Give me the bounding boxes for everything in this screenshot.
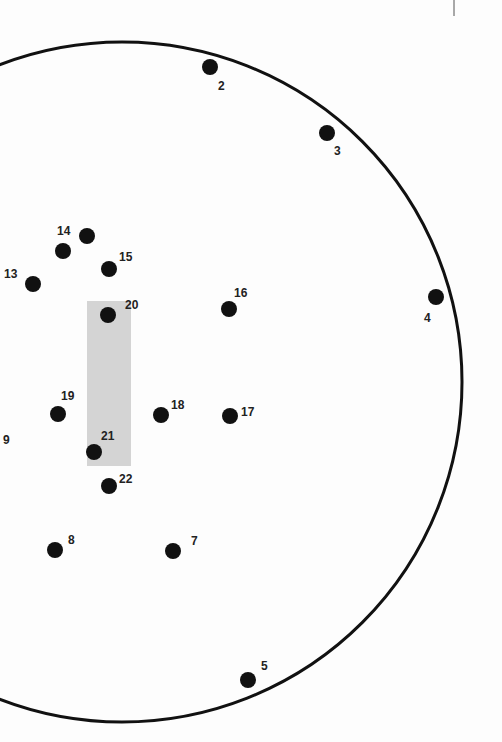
dot-label-3: 3 xyxy=(334,144,341,158)
dot-label-7: 7 xyxy=(191,534,198,548)
dots-group xyxy=(0,0,444,688)
dot-3 xyxy=(319,125,335,141)
dot-13 xyxy=(25,276,41,292)
dot-8 xyxy=(47,542,63,558)
circle-outline xyxy=(0,42,462,722)
dot-label-14: 14 xyxy=(57,224,71,238)
dot-label-13: 13 xyxy=(4,267,18,281)
dot-label-15: 15 xyxy=(119,250,133,264)
dot-label-20: 20 xyxy=(125,298,139,312)
dot-label-18: 18 xyxy=(171,398,185,412)
dot-4 xyxy=(428,289,444,305)
dot-20 xyxy=(100,307,116,323)
dot-label-4: 4 xyxy=(424,311,431,325)
dot-21 xyxy=(86,444,102,460)
dot-label-17: 17 xyxy=(241,405,255,419)
dot-14 xyxy=(79,228,95,244)
dot-label-19: 19 xyxy=(61,389,75,403)
dot-label-21: 21 xyxy=(101,429,115,443)
dot-15 xyxy=(101,261,117,277)
dot-label-2: 2 xyxy=(218,79,225,93)
dot-label-5: 5 xyxy=(261,659,268,673)
worksheet-page: 234578913141516171819202122 xyxy=(0,0,502,742)
dot-5 xyxy=(240,672,256,688)
dot-22 xyxy=(101,478,117,494)
dot-label-16: 16 xyxy=(234,286,248,300)
labels-group: 234578913141516171819202122 xyxy=(3,79,431,673)
dot-unlabeled-9 xyxy=(55,243,71,259)
dot-label-9: 9 xyxy=(3,433,10,447)
dot-18 xyxy=(153,407,169,423)
dot-7 xyxy=(165,543,181,559)
dot-16 xyxy=(221,301,237,317)
dot-2 xyxy=(202,59,218,75)
dot-17 xyxy=(222,408,238,424)
connect-the-dots-canvas: 234578913141516171819202122 xyxy=(0,0,502,742)
dot-label-22: 22 xyxy=(119,472,133,486)
dot-label-8: 8 xyxy=(68,533,75,547)
dot-19 xyxy=(50,406,66,422)
